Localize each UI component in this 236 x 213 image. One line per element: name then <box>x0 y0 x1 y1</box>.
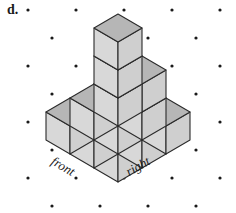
grid-dot <box>50 36 53 39</box>
grid-dot <box>218 8 221 11</box>
grid-dot <box>26 176 29 179</box>
grid-dot <box>194 36 197 39</box>
grid-dot <box>170 64 173 67</box>
grid-dot <box>74 176 77 179</box>
grid-dot <box>122 8 125 11</box>
grid-dot <box>26 120 29 123</box>
grid-dot <box>194 204 197 207</box>
grid-dot <box>194 92 197 95</box>
grid-dot <box>26 64 29 67</box>
grid-dot <box>74 8 77 11</box>
grid-dot <box>146 36 149 39</box>
grid-dot <box>170 176 173 179</box>
item-letter-label: d. <box>7 2 18 18</box>
grid-dot <box>218 176 221 179</box>
isometric-figure: frontright <box>0 0 236 213</box>
front-axis-label: front <box>49 153 78 179</box>
grid-dot <box>98 204 101 207</box>
grid-dot <box>170 8 173 11</box>
grid-dot <box>218 64 221 67</box>
cube-stack <box>46 14 190 182</box>
grid-dot <box>50 204 53 207</box>
grid-dot <box>50 92 53 95</box>
grid-dot <box>218 120 221 123</box>
grid-dot <box>194 148 197 151</box>
grid-dot <box>26 8 29 11</box>
grid-dot <box>74 64 77 67</box>
grid-dot <box>50 148 53 151</box>
grid-dot <box>146 204 149 207</box>
isometric-canvas: frontright <box>0 0 236 213</box>
